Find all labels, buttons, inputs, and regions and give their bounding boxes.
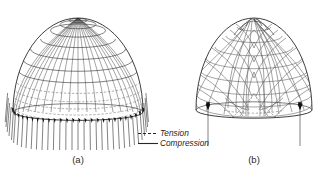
dome-a-support-arrows <box>5 93 148 150</box>
dome-b-support-node-right <box>298 102 302 105</box>
dome-b-trajectories-cross <box>228 30 280 116</box>
dome-a-mesh <box>13 18 143 125</box>
panel-a-caption: (a) <box>72 154 84 165</box>
panel-a: (a) <box>5 18 148 165</box>
dome-b-outline <box>196 18 312 110</box>
figure-canvas: (a) <box>0 0 328 176</box>
dome-b-support-arrows <box>206 102 303 146</box>
panel-b-caption: (b) <box>248 154 260 165</box>
dome-force-diagram-figure: (a) <box>0 0 328 176</box>
legend-tension-label: Tension <box>160 128 189 138</box>
dome-b-tension-lines <box>224 92 284 118</box>
legend-compression-label: Compression <box>160 138 209 148</box>
dome-b-support-node-left <box>206 102 210 105</box>
force-legend: Tension Compression <box>138 128 209 148</box>
